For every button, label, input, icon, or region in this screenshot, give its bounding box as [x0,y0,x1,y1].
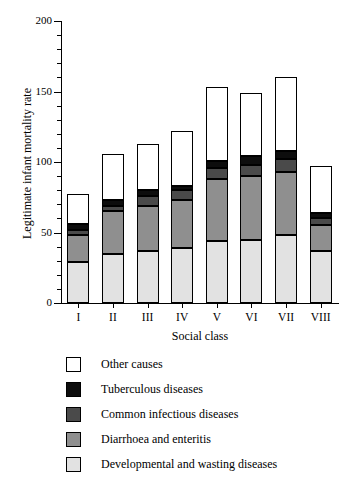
bar-segment [67,194,89,224]
bar-segment [240,176,262,239]
y-tick-label: 0 [12,297,52,308]
x-tick [217,303,218,308]
bar-segment [171,248,193,303]
bar-segment [67,262,89,303]
y-axis-title: Legitimate infant mortality rate [20,54,35,274]
x-tick [78,303,79,308]
bar-segment [171,131,193,186]
y-tick-major [54,233,61,234]
stacked-bar [206,87,228,303]
x-tick-label-viii: VIII [296,311,346,323]
x-axis-title: Social class [61,329,339,344]
bar-segment [275,151,297,159]
legend-label: Common infectious diseases [101,408,238,421]
stacked-bar [102,154,124,303]
bar-segment [310,218,332,225]
bar-segment [102,211,124,253]
chart-figure: 050100150200 Legitimate infant mortality… [0,0,354,486]
chart-legend: Other causesTuberculous diseasesCommon i… [66,352,346,477]
legend-swatch [66,407,81,422]
bar-segment [310,166,332,213]
stacked-bar [67,194,89,303]
x-axis-line [61,303,339,304]
legend-label: Tuberculous diseases [101,383,203,396]
bar-segment [310,213,332,219]
legend-label: Developmental and wasting diseases [101,458,277,471]
bar-segment [137,196,159,206]
bar-segment [206,179,228,241]
bar-segment [275,235,297,303]
y-tick-major [54,21,61,22]
stacked-bar [310,166,332,303]
plot-area [61,21,338,303]
y-tick-major [54,162,61,163]
x-tick [113,303,114,308]
bar-segment [171,186,193,190]
bar-segment [137,251,159,303]
stacked-bar [240,93,262,303]
y-tick-label: 200 [12,15,52,26]
bar-segment [275,159,297,172]
legend-item: Developmental and wasting diseases [66,452,346,477]
legend-item: Tuberculous diseases [66,377,346,402]
legend-label: Other causes [101,358,163,371]
bar-segment [102,254,124,303]
bar-segment [310,225,332,250]
bar-segment [137,190,159,196]
y-tick-major [54,303,61,304]
legend-item: Common infectious diseases [66,402,346,427]
bar-segment [102,154,124,201]
x-tick [251,303,252,308]
bar-segment [240,240,262,303]
bar-segment [240,93,262,156]
x-tick [286,303,287,308]
bar-segment [137,144,159,191]
bar-segment [240,165,262,176]
bar-segment [206,161,228,168]
bar-segment [206,241,228,303]
stacked-bar [275,77,297,303]
bar-segment [67,235,89,262]
bar-segment [137,206,159,251]
bar-segment [102,206,124,212]
bar-segment [171,190,193,200]
legend-swatch [66,382,81,397]
bar-segment [171,200,193,248]
bar-segment [275,77,297,150]
y-tick-major [54,92,61,93]
legend-swatch [66,357,81,372]
bar-segment [206,168,228,179]
bar-segment [102,200,124,206]
bar-segment [240,156,262,164]
stacked-bar [171,131,193,303]
bar-segment [310,251,332,303]
legend-item: Other causes [66,352,346,377]
legend-label: Diarrhoea and enteritis [101,433,211,446]
legend-item: Diarrhoea and enteritis [66,427,346,452]
x-tick [182,303,183,308]
bar-segment [67,224,89,230]
x-tick [148,303,149,308]
legend-swatch [66,457,81,472]
bar-segment [67,230,89,236]
bar-segment [275,172,297,235]
legend-swatch [66,432,81,447]
stacked-bar [137,144,159,303]
x-tick [321,303,322,308]
bar-segment [206,87,228,160]
